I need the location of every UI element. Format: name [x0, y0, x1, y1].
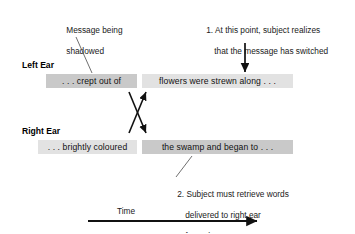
segment-right-after-switch: the swamp and began to . . . [142, 140, 293, 154]
channel-label-left-ear: Left Ear [22, 60, 54, 70]
crossover-arrow-down [129, 92, 146, 133]
annotation-message-shadowed: Message being shadowed [57, 14, 123, 67]
leader-line-note-two [176, 156, 192, 177]
annotation-note-two: 2. Subject must retrieve words delivered… [168, 178, 289, 233]
segment-right-unattended: . . . brightly coloured [38, 140, 137, 154]
segment-left-after-switch: flowers were strewn along . . . [142, 74, 293, 88]
annotation-note-one: 1. At this point, subject realizes that … [197, 14, 328, 67]
annotation-note-two-line1: 2. Subject must retrieve words [177, 189, 289, 199]
annotation-note-one-line1: 1. At this point, subject realizes [206, 25, 320, 35]
annotation-note-two-line2: delivered to right ear [177, 210, 261, 220]
channel-label-right-ear: Right Ear [22, 126, 60, 136]
annotation-message-shadowed-line2: shadowed [66, 46, 104, 56]
time-axis-label: Time [117, 206, 135, 216]
annotation-message-shadowed-line1: Message being [66, 25, 122, 35]
annotation-note-two-line3: from short-term memory [177, 231, 274, 234]
annotation-note-one-line2: that the message has switched [206, 46, 328, 56]
dichotic-listening-diagram: Message being shadowed 1. At this point,… [0, 0, 355, 233]
crossover-arrow-up [129, 92, 146, 133]
segment-left-shadowed: . . . crept out of [46, 74, 137, 88]
